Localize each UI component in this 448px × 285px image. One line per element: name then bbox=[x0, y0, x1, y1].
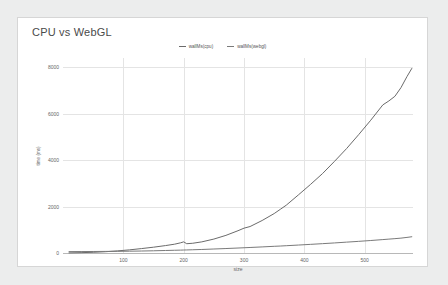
legend-item-webgl[interactable]: wallMs(webgl) bbox=[227, 44, 266, 49]
legend-swatch-webgl bbox=[227, 46, 234, 48]
y-tick-label: 4000 bbox=[48, 157, 59, 163]
series-lines bbox=[63, 58, 413, 253]
y-axis-label: time (ms) bbox=[36, 146, 41, 165]
line-wallms-webgl bbox=[69, 237, 412, 252]
gridline-y bbox=[63, 253, 413, 254]
plot-area: time (ms) size 02000400060008000 1002003… bbox=[63, 58, 413, 253]
legend-label-cpu: wallMs(cpu) bbox=[189, 44, 214, 49]
x-tick-label: 300 bbox=[240, 257, 248, 263]
y-tick-label: 2000 bbox=[48, 204, 59, 210]
chart-card: CPU vs WebGL wallMs(cpu) wallMs(webgl) t… bbox=[17, 17, 428, 267]
y-tick-label: 0 bbox=[56, 250, 59, 256]
x-axis-label: size bbox=[234, 266, 243, 272]
legend-label-webgl: wallMs(webgl) bbox=[237, 44, 266, 49]
x-tick-label: 400 bbox=[300, 257, 308, 263]
chart-title: CPU vs WebGL bbox=[32, 26, 112, 38]
legend-item-cpu[interactable]: wallMs(cpu) bbox=[179, 44, 214, 49]
x-tick-label: 100 bbox=[119, 257, 127, 263]
chart-legend: wallMs(cpu) wallMs(webgl) bbox=[18, 44, 427, 49]
y-tick-label: 6000 bbox=[48, 111, 59, 117]
x-tick-label: 200 bbox=[180, 257, 188, 263]
line-wallms-cpu bbox=[69, 68, 412, 252]
legend-swatch-cpu bbox=[179, 46, 186, 48]
y-tick-label: 8000 bbox=[48, 64, 59, 70]
x-tick-label: 500 bbox=[361, 257, 369, 263]
